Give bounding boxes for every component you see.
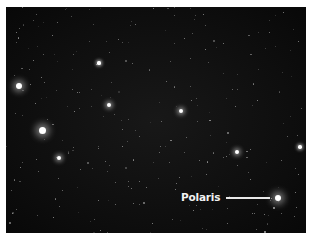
faint-star [73,147,74,148]
faint-star [28,48,30,50]
faint-star [193,210,194,211]
faint-star [54,54,55,55]
faint-star [165,146,166,147]
faint-star [100,8,101,9]
faint-star [14,179,16,181]
faint-star [89,41,90,42]
faint-star [298,174,299,175]
faint-star [248,172,249,173]
faint-star [282,72,283,73]
faint-star [133,159,135,161]
faint-star [176,106,177,107]
faint-star [143,202,145,204]
faint-star [91,89,92,90]
faint-star [132,63,133,64]
faint-star [128,119,129,120]
faint-star [72,69,73,70]
faint-star [79,92,80,93]
faint-star [226,142,227,143]
faint-star [205,25,206,26]
faint-star [23,24,25,26]
faint-star [263,191,264,192]
faint-star [72,89,73,90]
faint-star [170,61,171,62]
faint-star [237,89,238,90]
faint-star [213,40,215,42]
faint-star [21,68,23,70]
faint-star [62,190,63,191]
faint-star [158,178,159,179]
faint-star [190,86,191,87]
star [179,109,183,113]
faint-star [283,12,284,13]
faint-star [190,58,191,59]
faint-star [281,213,282,214]
faint-star [297,135,298,136]
faint-star [37,46,38,47]
faint-star [122,146,123,147]
faint-star [57,61,58,62]
faint-star [264,214,265,215]
faint-star [30,84,31,85]
faint-star [197,105,198,106]
faint-star [152,223,153,224]
faint-star [226,98,227,99]
faint-star [301,108,302,109]
faint-star [227,132,229,134]
faint-star [296,207,297,208]
faint-star [44,82,45,83]
faint-star [35,103,36,104]
faint-star [16,42,17,43]
star [107,103,111,107]
faint-star [101,95,102,96]
faint-star [227,208,228,209]
faint-star [290,116,291,117]
faint-star [58,178,59,179]
star [298,145,302,149]
faint-star [227,223,228,224]
faint-star [146,187,147,188]
faint-star [56,157,57,158]
faint-star [271,198,272,199]
star [39,127,46,134]
faint-star [118,91,120,93]
faint-star [18,37,20,39]
faint-star [298,41,299,42]
faint-star [87,162,89,164]
faint-star [258,69,259,70]
polaris-label: Polaris [181,191,220,203]
faint-star [79,108,80,109]
faint-star [254,213,255,214]
star [16,83,22,89]
faint-star [269,20,270,21]
faint-star [22,115,23,116]
faint-star [130,25,131,26]
faint-star [107,171,108,172]
faint-star [128,186,129,187]
faint-star [94,219,95,220]
star [97,61,100,64]
faint-star [93,24,94,25]
star-field-image [6,7,306,233]
faint-star [80,169,81,170]
faint-star [212,209,213,210]
faint-star [159,102,160,103]
faint-star [74,111,75,112]
faint-star [15,113,16,114]
faint-star [275,15,276,16]
faint-star [294,216,295,217]
faint-star [250,54,252,56]
faint-star [253,83,255,85]
faint-star [184,152,185,153]
faint-star [52,124,54,126]
faint-star [108,200,109,201]
faint-star [107,232,108,233]
faint-star [186,137,187,138]
faint-star [235,106,236,107]
faint-star [237,165,238,166]
faint-star [62,140,63,141]
faint-star [248,35,250,37]
faint-star [264,231,266,233]
faint-star [161,121,162,122]
faint-star [169,162,170,163]
